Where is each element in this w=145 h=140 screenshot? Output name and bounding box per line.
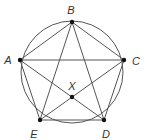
segment-bd bbox=[72, 22, 104, 120]
label-a: A bbox=[3, 54, 11, 66]
point-a bbox=[18, 58, 22, 62]
label-d: D bbox=[102, 128, 110, 140]
points-group bbox=[18, 20, 126, 122]
label-c: C bbox=[132, 55, 140, 67]
point-c bbox=[122, 58, 126, 62]
label-e: E bbox=[30, 128, 38, 140]
point-e bbox=[38, 118, 42, 122]
point-b bbox=[70, 20, 74, 24]
segment-be bbox=[40, 22, 72, 120]
point-x bbox=[70, 95, 74, 99]
label-b: B bbox=[67, 4, 74, 16]
segment-ad bbox=[20, 60, 104, 120]
segment-ce bbox=[40, 60, 124, 120]
pentagon-diagram: BACXED bbox=[0, 0, 145, 140]
segment-ea bbox=[20, 60, 40, 120]
point-d bbox=[102, 118, 106, 122]
label-x: X bbox=[67, 80, 76, 92]
segment-cd bbox=[104, 60, 124, 120]
